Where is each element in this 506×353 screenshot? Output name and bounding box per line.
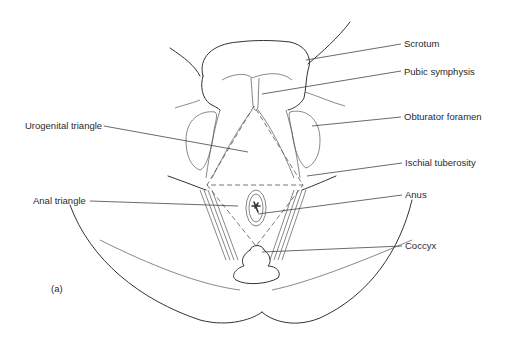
leader-scrotum: [306, 44, 401, 60]
label-anus: Anus: [405, 189, 427, 200]
label-scrotum: Scrotum: [404, 38, 439, 49]
leader-coccyx: [262, 246, 402, 252]
perineum-diagram: Scrotum Pubic symphysis Obturator forame…: [0, 0, 506, 353]
label-pubic-symphysis: Pubic symphysis: [404, 66, 475, 77]
label-anal-triangle: Anal triangle: [33, 195, 86, 206]
label-obturator-foramen: Obturator foramen: [404, 111, 482, 122]
label-ischial-tuberosity: Ischial tuberosity: [405, 157, 476, 168]
leader-anus: [258, 195, 402, 214]
leader-obturator-foramen: [312, 117, 401, 126]
label-coccyx: Coccyx: [405, 240, 436, 251]
urogenital-triangle-outline: [207, 106, 303, 185]
left-obturator: [186, 112, 217, 170]
scrotum-outline: [202, 41, 309, 111]
anatomy-drawing: [0, 0, 506, 353]
leader-anal-triangle: [90, 201, 238, 206]
label-urogenital-triangle: Urogenital triangle: [25, 120, 102, 131]
right-obturator: [289, 111, 320, 168]
panel-label: (a): [51, 283, 63, 294]
leader-pubic-symphysis: [262, 71, 401, 94]
left-buttock: [70, 205, 262, 323]
leader-ischial-tuberosity: [307, 163, 402, 176]
leader-urogenital-triangle: [104, 126, 248, 152]
